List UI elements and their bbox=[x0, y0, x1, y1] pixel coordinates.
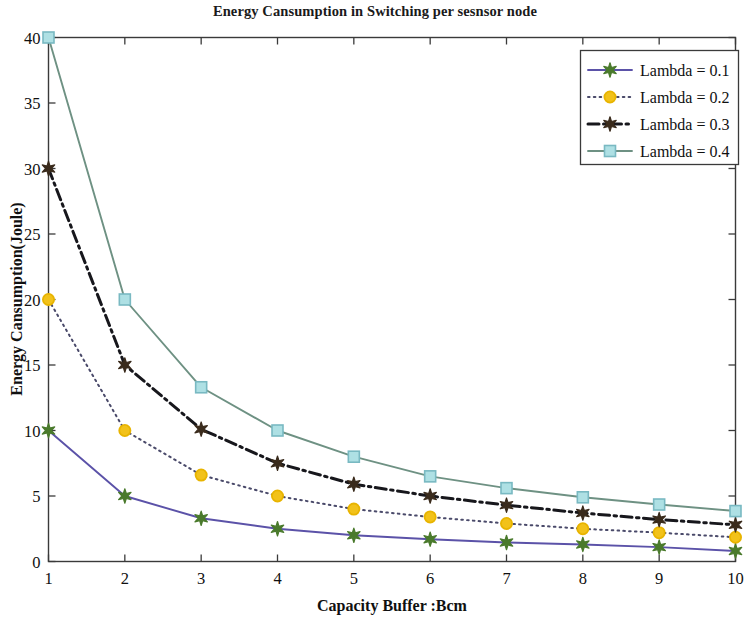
data-point-marker bbox=[196, 469, 207, 480]
data-point-marker bbox=[119, 425, 130, 436]
x-tick-label: 8 bbox=[579, 569, 587, 588]
y-tick-label: 20 bbox=[24, 291, 41, 310]
y-tick-label: 5 bbox=[32, 487, 40, 506]
data-point-marker bbox=[729, 518, 741, 532]
data-point-marker bbox=[119, 489, 131, 503]
x-tick-label: 6 bbox=[426, 569, 434, 588]
data-point-marker bbox=[196, 382, 207, 393]
legend-item-1[interactable]: Lambda = 0.1 bbox=[588, 62, 729, 79]
chart-legend: Lambda = 0.1Lambda = 0.2Lambda = 0.3Lamb… bbox=[581, 51, 739, 165]
line-chart-plot: 0510152025303540 12345678910 Energy Cans… bbox=[0, 0, 750, 622]
legend-item-2[interactable]: Lambda = 0.2 bbox=[588, 89, 729, 106]
data-point-marker bbox=[730, 532, 741, 543]
data-point-marker bbox=[501, 483, 512, 494]
data-point-marker bbox=[605, 146, 616, 157]
data-point-marker bbox=[348, 504, 359, 515]
data-point-marker bbox=[577, 492, 588, 503]
y-tick-label: 0 bbox=[32, 553, 40, 572]
y-tick-label: 15 bbox=[24, 356, 41, 375]
legend-label: Lambda = 0.2 bbox=[640, 89, 729, 106]
series-2 bbox=[43, 294, 741, 543]
data-point-marker bbox=[425, 511, 436, 522]
legend-label: Lambda = 0.1 bbox=[640, 62, 729, 79]
x-tick-label: 5 bbox=[350, 569, 358, 588]
legend-label: Lambda = 0.4 bbox=[640, 143, 729, 160]
data-point-marker bbox=[43, 32, 54, 43]
series-3 bbox=[42, 161, 741, 532]
x-tick-label: 10 bbox=[727, 569, 744, 588]
data-point-marker bbox=[654, 527, 665, 538]
x-axis-tick-labels: 12345678910 bbox=[44, 569, 743, 588]
legend-label: Lambda = 0.3 bbox=[640, 116, 729, 133]
data-point-marker bbox=[119, 294, 130, 305]
figure-container: Energy Cansumption in Switching per sesn… bbox=[0, 0, 750, 622]
series-line bbox=[49, 169, 736, 525]
data-point-marker bbox=[272, 425, 283, 436]
y-tick-label: 30 bbox=[24, 160, 41, 179]
y-axis-tick-labels: 0510152025303540 bbox=[24, 29, 41, 572]
y-tick-label: 25 bbox=[24, 225, 41, 244]
data-point-marker bbox=[604, 91, 615, 102]
y-tick-label: 35 bbox=[24, 94, 41, 113]
x-tick-label: 9 bbox=[655, 569, 663, 588]
data-point-marker bbox=[272, 490, 283, 501]
y-tick-label: 10 bbox=[24, 422, 41, 441]
x-tick-label: 1 bbox=[44, 569, 52, 588]
data-point-marker bbox=[577, 523, 588, 534]
data-point-marker bbox=[501, 518, 512, 529]
data-point-marker bbox=[43, 294, 54, 305]
legend-item-3[interactable]: Lambda = 0.3 bbox=[588, 116, 729, 133]
data-point-marker bbox=[425, 471, 436, 482]
x-tick-label: 4 bbox=[273, 569, 281, 588]
data-point-marker bbox=[730, 506, 741, 517]
data-point-marker bbox=[654, 499, 665, 510]
x-tick-label: 2 bbox=[121, 569, 129, 588]
y-tick-label: 40 bbox=[24, 29, 41, 48]
x-axis-title: Capacity Buffer :Bcm bbox=[317, 597, 468, 615]
x-tick-label: 7 bbox=[502, 569, 510, 588]
x-tick-label: 3 bbox=[197, 569, 205, 588]
y-axis-title: Energy Cansumption(Joule) bbox=[8, 202, 26, 395]
data-point-marker bbox=[348, 451, 359, 462]
